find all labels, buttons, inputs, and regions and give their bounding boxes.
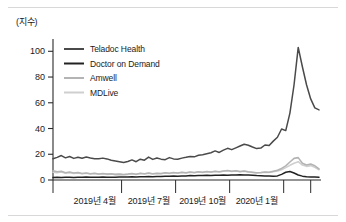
- y-tick-label: 20: [35, 149, 45, 159]
- y-tick-label: 60: [35, 98, 45, 108]
- x-axis-ticks: 2019년 4월2019년 7월2019년 10월2020년 1월: [53, 180, 311, 206]
- chart-legend: Teladoc HealthDoctor on DemandAmwellMDLi…: [64, 44, 160, 97]
- y-tick-label: 40: [35, 124, 45, 134]
- y-axis-ticks: 020406080100: [30, 46, 53, 185]
- x-tick-label: 2019년 10월: [179, 195, 226, 206]
- y-tick-label: 80: [35, 72, 45, 82]
- legend-label: Teladoc Health: [90, 44, 145, 54]
- y-tick-label: 0: [40, 175, 45, 185]
- line-chart-plot: 020406080100 2019년 4월2019년 7월2019년 10월20…: [0, 0, 346, 222]
- legend-label: Doctor on Demand: [90, 59, 160, 69]
- x-tick-label: 2019년 7월: [128, 195, 170, 206]
- x-tick-label: 2019년 4월: [74, 195, 116, 206]
- series-line-amwell: [53, 158, 319, 175]
- x-tick-label: 2020년 1월: [236, 195, 278, 206]
- legend-label: MDLive: [90, 88, 119, 98]
- legend-label: Amwell: [90, 73, 117, 83]
- y-tick-label: 100: [30, 46, 45, 56]
- chart-figure: (지수) 020406080100 2019년 4월2019년 7월2019년 …: [0, 0, 346, 222]
